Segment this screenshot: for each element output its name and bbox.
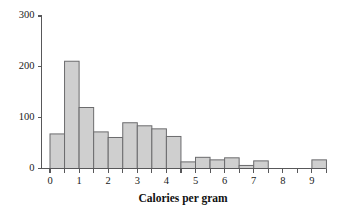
x-tick-label: 2 xyxy=(106,175,111,186)
histogram-bar xyxy=(152,129,167,169)
histogram-bar xyxy=(94,132,109,169)
y-tick-label: 300 xyxy=(19,9,35,20)
histogram-bar xyxy=(225,158,240,169)
histogram-bar xyxy=(65,61,80,168)
histogram-bar xyxy=(312,160,327,169)
x-tick-label: 0 xyxy=(47,175,52,186)
x-tick-label: 4 xyxy=(164,175,170,186)
histogram-bar xyxy=(210,160,225,169)
x-tick-label: 1 xyxy=(76,175,81,186)
bars-group xyxy=(50,61,326,168)
x-tick-label: 6 xyxy=(222,175,227,186)
histogram-bar xyxy=(137,126,152,169)
histogram-bar xyxy=(50,134,65,169)
y-tick-label: 200 xyxy=(19,60,35,71)
x-tick-label: 3 xyxy=(135,175,140,186)
histogram-bar xyxy=(108,137,123,168)
histogram-plot-area: 0100200300 0123456789 Calories per gram xyxy=(0,0,340,215)
histogram-bar xyxy=(196,157,211,168)
histogram-bar xyxy=(79,108,94,169)
y-tick-label: 100 xyxy=(19,111,35,122)
y-tick-label: 0 xyxy=(29,162,34,173)
histogram-bar xyxy=(181,162,196,169)
x-tick-label: 5 xyxy=(193,175,198,186)
x-tick-label: 9 xyxy=(309,175,314,186)
x-tick-labels: 0123456789 xyxy=(47,175,314,186)
x-tick-label: 8 xyxy=(280,175,285,186)
x-tick-label: 7 xyxy=(251,175,256,186)
histogram-bar xyxy=(166,136,181,168)
histogram-bar xyxy=(254,161,269,169)
histogram-figure: 0100200300 0123456789 Calories per gram xyxy=(0,0,340,215)
histogram-bar xyxy=(123,123,138,169)
x-axis-title: Calories per gram xyxy=(138,192,228,205)
y-tick-labels: 0100200300 xyxy=(19,9,35,173)
